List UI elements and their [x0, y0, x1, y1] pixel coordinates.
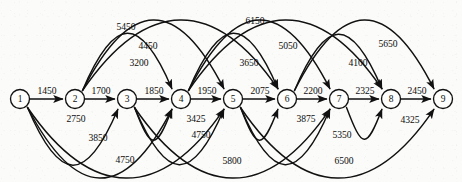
edge-weight-label: 5450: [116, 21, 135, 32]
edge-4-to-6: [189, 33, 278, 90]
edge-weight-label: 2200: [303, 85, 322, 96]
network-diagram-canvas: 123456789 145017001850195020752200232524…: [0, 0, 462, 182]
edge-weight-label: 1700: [91, 85, 110, 96]
edge-weight-label: 1850: [144, 85, 163, 96]
edge-weight-label: 2075: [250, 85, 269, 96]
edge-weight-label: 4100: [348, 57, 367, 68]
node-label: 7: [337, 94, 342, 104]
edge-weight-label: 2750: [66, 113, 85, 124]
node-label: 6: [285, 94, 290, 104]
node-8[interactable]: 8: [382, 90, 401, 109]
edge-weight-label: 3425: [186, 113, 205, 124]
edge-5-to-6: [241, 108, 278, 141]
edge-weight-label: 1450: [37, 85, 56, 96]
edge-5-to-7: [241, 108, 330, 165]
edge-weight-label: 4750: [115, 154, 134, 165]
node-3[interactable]: 3: [118, 90, 137, 109]
edge-weight-label: 4325: [400, 114, 419, 125]
edge-weight-label: 5800: [222, 155, 241, 166]
edge-weight-label: 2325: [355, 85, 374, 96]
node-label: 8: [389, 94, 394, 104]
edge-weight-label: 6150: [245, 15, 264, 26]
edge-7-to-8: [347, 108, 382, 140]
node-7[interactable]: 7: [330, 90, 349, 109]
node-label: 1: [18, 94, 23, 104]
edge-weight-label: 4450: [138, 40, 157, 51]
edge-3-to-4: [135, 108, 172, 141]
edge-6-to-8: [295, 34, 382, 90]
edge-weight-label: 5650: [378, 38, 397, 49]
edge-weight-label: 5050: [278, 40, 297, 51]
edge-2-to-5: [83, 20, 224, 91]
node-1[interactable]: 1: [11, 90, 30, 109]
node-9[interactable]: 9: [434, 90, 453, 109]
edge-1-to-4: [28, 108, 172, 179]
edge-weight-label: 3875: [296, 113, 315, 124]
node-label: 5: [231, 94, 236, 104]
edge-weight-label: 3850: [88, 132, 107, 143]
edge-4-to-8: [189, 20, 382, 91]
edge-weight-label: 1950: [197, 85, 216, 96]
edge-4-to-7: [189, 20, 330, 91]
edge-weight-label: 5350: [332, 129, 351, 140]
network-graph: 123456789 145017001850195020752200232524…: [0, 0, 462, 182]
edge-weight-label: 4750: [191, 129, 210, 140]
node-6[interactable]: 6: [278, 90, 297, 109]
node-label: 2: [73, 94, 78, 104]
edge-weight-label: 3650: [239, 57, 258, 68]
node-5[interactable]: 5: [224, 90, 243, 109]
edge-weight-label: 3200: [129, 57, 148, 68]
node-label: 9: [441, 94, 446, 104]
edge-2-to-4: [83, 33, 172, 90]
node-label: 4: [179, 94, 184, 104]
edge-weight-label: 6500: [334, 155, 353, 166]
edge-weight-label: 2450: [407, 85, 426, 96]
node-label: 3: [125, 94, 130, 104]
node-layer: 123456789: [11, 90, 453, 109]
node-2[interactable]: 2: [66, 90, 85, 109]
node-4[interactable]: 4: [172, 90, 191, 109]
